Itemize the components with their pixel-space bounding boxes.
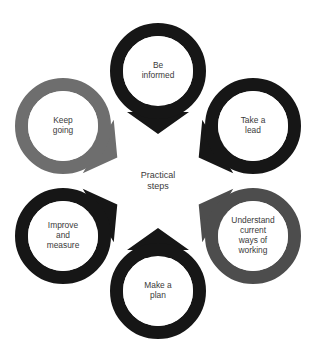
hub-label-line: Practical — [141, 170, 176, 180]
practical-steps-diagram: BeinformedTake aleadUnderstandcurrentway… — [0, 0, 316, 352]
node-label-line: measure — [47, 240, 80, 250]
node-label-line: Be — [153, 60, 164, 70]
node-label-line: Keep — [53, 115, 73, 125]
node-label-line: informed — [142, 70, 175, 80]
node-label-line: going — [53, 125, 74, 135]
node-label-line: and — [56, 230, 70, 240]
hub-label-line: steps — [147, 181, 169, 191]
node-label-line: working — [238, 246, 268, 256]
node-label-line: Improve — [48, 220, 79, 230]
node-label-line: lead — [245, 125, 261, 135]
node-label-line: Take a — [241, 115, 266, 125]
node-label-line: ways of — [238, 235, 268, 245]
cycle-diagram-canvas: BeinformedTake aleadUnderstandcurrentway… — [0, 0, 316, 352]
node-label-keep-going: Keepgoing — [53, 115, 74, 135]
node-label-line: Make a — [144, 280, 172, 290]
node-label-line: current — [240, 225, 267, 235]
node-label-line: plan — [150, 290, 166, 300]
node-label-line: Understand — [231, 215, 275, 225]
